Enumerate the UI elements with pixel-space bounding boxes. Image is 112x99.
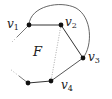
- edge-v2-v4-dotted: [51, 25, 61, 81]
- node-v1: [27, 23, 32, 28]
- graph-diagram: v1 v2 v3 v4 F: [0, 0, 112, 99]
- edge-extra-tail-dots: [10, 69, 19, 76]
- label-v2: v2: [65, 15, 77, 30]
- edge-v1-tail-dots: [11, 37, 17, 43]
- face-label: F: [32, 44, 43, 59]
- label-v4: v4: [61, 78, 73, 93]
- node-extra: [26, 81, 31, 86]
- node-v4: [49, 79, 54, 84]
- label-v3: v3: [88, 50, 100, 65]
- node-v2: [59, 23, 64, 28]
- node-v3: [81, 56, 86, 61]
- label-v1: v1: [7, 17, 19, 32]
- edge-v4-extra: [28, 81, 51, 83]
